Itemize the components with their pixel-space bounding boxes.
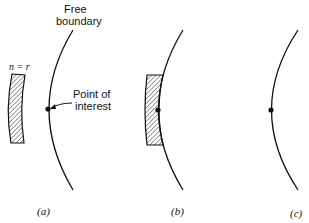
hatched-region-n-equals-r (8, 74, 25, 143)
free-boundary-label-line2: boundary (56, 15, 102, 27)
region-label: n = r (9, 61, 30, 72)
panel-c: (c) (268, 30, 302, 220)
diagram-canvas: n = r Free boundary Point of interest (a… (0, 0, 309, 223)
free-boundary-arc-b (159, 30, 184, 190)
free-boundary-label-line1: Free (64, 3, 87, 15)
panel-a: n = r Free boundary Point of interest (a… (8, 3, 111, 218)
point-of-interest-dot-a (45, 106, 50, 111)
point-of-interest-label-line2: interest (75, 100, 111, 112)
point-of-interest-dot-c (268, 107, 273, 112)
caption-c: (c) (290, 207, 303, 220)
caption-a: (a) (37, 205, 50, 218)
free-boundary-arc-a (49, 30, 73, 190)
caption-b: (b) (171, 205, 184, 218)
point-of-interest-label-line1: Point of (73, 88, 111, 100)
arrow-head-icon (50, 104, 56, 109)
point-of-interest-dot-b (155, 107, 160, 112)
free-boundary-arc-c (272, 30, 299, 190)
panel-b: (b) (145, 30, 184, 218)
